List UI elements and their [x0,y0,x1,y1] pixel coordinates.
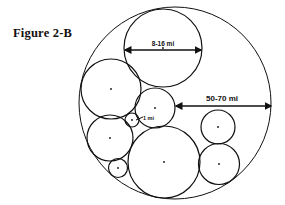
circle-outer [79,7,271,199]
center-dot-upper-left [110,88,112,90]
center-dot-top [162,47,164,49]
center-dot-right-lower [218,163,220,165]
circle-packing-diagram: 8-16 mi 50-70 mi 1 mi [0,0,285,205]
small-circle-label: 1 mi [143,115,154,121]
center-dot-lower-left [109,137,111,139]
radius-label: 50-70 mi [206,94,238,103]
center-dot-bottom-large [163,161,165,163]
diameter-label: 8-16 mi [152,40,175,47]
center-dot-right-upper [217,126,219,128]
circles-group [79,7,271,199]
center-dot-center-small [154,107,156,109]
center-dot-bottom-left-small [117,167,119,169]
center-dot-tiny-1mi [131,119,133,121]
